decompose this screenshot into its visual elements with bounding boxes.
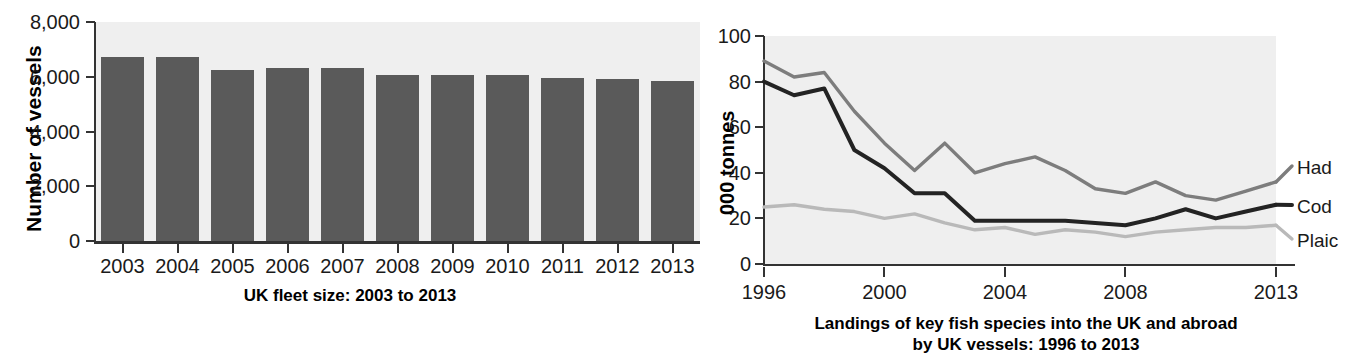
bar-2007: [321, 68, 364, 241]
bar-x-tick-2012: [617, 244, 619, 253]
bar-x-tick-2008: [397, 244, 399, 253]
bar-x-tick-label-2012: 2012: [590, 256, 645, 276]
bar-x-tick-label-2009: 2009: [425, 256, 480, 276]
bar-2012: [596, 79, 639, 241]
bar-2013: [651, 81, 694, 241]
line-series-haddock: [764, 61, 1276, 200]
two-chart-figure: Number of vessels 02,0004,0006,0008,000 …: [0, 0, 1352, 357]
bar-x-tick-label-2011: 2011: [535, 256, 590, 276]
bar-2010: [486, 75, 529, 241]
legend-label-haddock: Had: [1297, 158, 1332, 177]
legend-label-cod: Cod: [1297, 197, 1332, 216]
bar-chart-caption: UK fleet size: 2003 to 2013: [0, 285, 700, 306]
uk-fleet-size-bar-chart: Number of vessels 02,0004,0006,0008,000 …: [0, 0, 700, 357]
line-chart-caption-line1: Landings of key fish species into the UK…: [700, 313, 1352, 334]
bar-x-tick-2010: [507, 244, 509, 253]
bar-x-tick-2003: [122, 244, 124, 253]
bar-x-tick-2005: [232, 244, 234, 253]
bar-x-tick-label-2013: 2013: [645, 256, 700, 276]
bar-y-tick-2000: [86, 185, 95, 187]
bar-x-tick-2011: [562, 244, 564, 253]
bar-x-tick-label-2004: 2004: [150, 256, 205, 276]
bar-y-tick-0: [86, 240, 95, 242]
bar-y-tick-4000: [86, 131, 95, 133]
legend-leader-haddock-icon: [1276, 166, 1292, 182]
bar-y-tick-label-4000: 4,000: [0, 122, 80, 142]
bar-x-tick-2013: [672, 244, 674, 253]
line-series-svg: [700, 0, 1352, 357]
bar-2004: [156, 57, 199, 241]
line-chart-caption-line2: by UK vessels: 1996 to 2013: [700, 334, 1352, 355]
bar-y-tick-8000: [86, 21, 95, 23]
fish-landings-line-chart: 000 tonnes 020406080100 1996200020042008…: [700, 0, 1352, 357]
bar-x-tick-label-2007: 2007: [315, 256, 370, 276]
bar-2005: [211, 70, 254, 241]
bar-x-tick-2006: [287, 244, 289, 253]
line-series-cod: [764, 82, 1276, 226]
bar-2011: [541, 78, 584, 241]
bar-2006: [266, 68, 309, 241]
bar-y-tick-label-2000: 2,000: [0, 176, 80, 196]
bar-y-tick-label-0: 0: [0, 231, 80, 251]
bar-y-tick-label-6000: 6,000: [0, 67, 80, 87]
bar-x-tick-label-2008: 2008: [370, 256, 425, 276]
bar-x-tick-2007: [342, 244, 344, 253]
legend-label-plaice: Plaic: [1297, 231, 1338, 250]
bar-2003: [101, 57, 144, 241]
bar-x-tick-label-2005: 2005: [205, 256, 260, 276]
legend-leader-plaice-icon: [1276, 225, 1292, 239]
bar-x-tick-2009: [452, 244, 454, 253]
bar-y-tick-label-8000: 8,000: [0, 12, 80, 32]
bar-x-tick-label-2003: 2003: [95, 256, 150, 276]
bar-2008: [376, 75, 419, 241]
bar-x-tick-label-2006: 2006: [260, 256, 315, 276]
bar-x-tick-label-2010: 2010: [480, 256, 535, 276]
bar-2009: [431, 75, 474, 241]
bar-y-tick-6000: [86, 76, 95, 78]
bar-x-tick-2004: [177, 244, 179, 253]
